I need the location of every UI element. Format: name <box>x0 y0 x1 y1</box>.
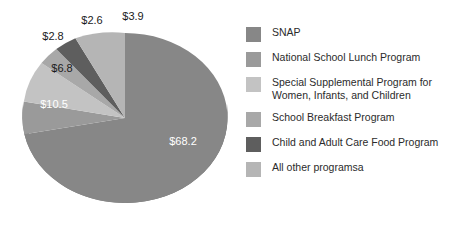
legend-label-wic: Special Supplemental Program for Women, … <box>272 76 432 102</box>
legend-label-snap: SNAP <box>272 26 301 39</box>
legend-item-snap[interactable]: SNAP <box>246 26 458 42</box>
pie-label-sbp: $2.8 <box>42 30 63 42</box>
legend-swatch-nslp <box>246 52 261 67</box>
legend-swatch-cacfp <box>246 137 261 152</box>
pie-label-snap: $68.2 <box>169 135 197 147</box>
legend-label-cacfp: Child and Adult Care Food Program <box>272 136 438 149</box>
pie-svg: $68.2 $10.5 $6.8 $2.8 $2.6 $3.9 <box>0 0 240 226</box>
pie-plot-area: $68.2 $10.5 $6.8 $2.8 $2.6 $3.9 <box>0 0 240 226</box>
legend-swatch-sbp <box>246 112 261 127</box>
legend-swatch-snap <box>246 27 261 42</box>
legend-item-sbp[interactable]: School Breakfast Program <box>246 111 458 127</box>
legend-swatch-other <box>246 162 261 177</box>
legend-item-wic[interactable]: Special Supplemental Program for Women, … <box>246 76 458 102</box>
legend-label-sbp: School Breakfast Program <box>272 111 395 124</box>
pie-label-cacfp: $2.6 <box>81 14 102 26</box>
pie-label-nslp: $10.5 <box>40 98 68 110</box>
pie-chart-figure: $68.2 $10.5 $6.8 $2.8 $2.6 $3.9 SNAP Nat… <box>0 0 458 226</box>
legend-item-cacfp[interactable]: Child and Adult Care Food Program <box>246 136 458 152</box>
legend-label-other: All other programsa <box>272 161 364 174</box>
pie-label-wic: $6.8 <box>51 62 72 74</box>
legend-swatch-wic <box>246 77 261 92</box>
legend: SNAP National School Lunch Program Speci… <box>246 26 458 186</box>
legend-item-other[interactable]: All other programsa <box>246 161 458 177</box>
legend-label-nslp: National School Lunch Program <box>272 51 420 64</box>
pie-label-other: $3.9 <box>122 10 143 22</box>
legend-item-nslp[interactable]: National School Lunch Program <box>246 51 458 67</box>
